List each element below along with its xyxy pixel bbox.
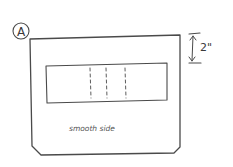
dimension-top-tick [189,33,200,34]
panel-label: A [17,25,26,39]
fold-line [106,68,107,98]
outer-panel-outline [30,35,180,155]
dimension-label: 2" [200,41,212,54]
fold-line [125,68,126,98]
surface-label: smooth side [69,124,115,133]
panel-label-marker: A [13,23,29,39]
fold-line [90,68,91,98]
panel-diagram: A 2" smooth side [0,0,233,167]
fold-lines [90,68,126,98]
dimension-line [192,36,193,61]
dimension-marker: 2" [189,33,212,63]
